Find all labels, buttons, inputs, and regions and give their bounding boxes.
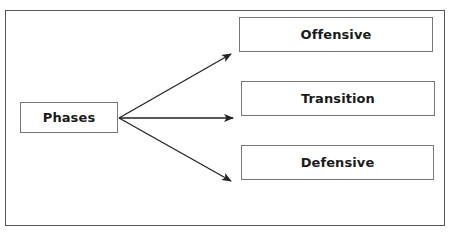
transition-label: Transition [301, 91, 375, 106]
transition-node: Transition [241, 81, 435, 116]
defensive-node: Defensive [241, 145, 434, 180]
offensive-node: Offensive [239, 17, 433, 52]
defensive-label: Defensive [301, 155, 375, 170]
phases-node: Phases [20, 102, 118, 133]
offensive-label: Offensive [301, 27, 372, 42]
phases-label: Phases [43, 110, 95, 125]
